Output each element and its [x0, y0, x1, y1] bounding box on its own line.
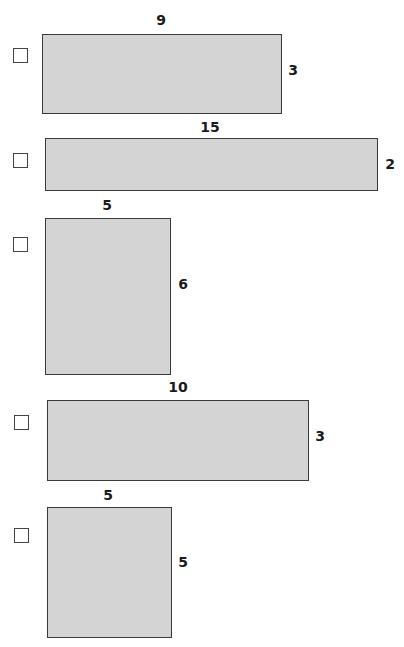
width-label: 5 — [103, 488, 113, 502]
height-label: 3 — [288, 63, 298, 77]
rectangle-shape — [42, 34, 282, 114]
height-label: 6 — [178, 277, 188, 291]
rectangle-shape — [45, 218, 171, 375]
width-label: 15 — [200, 120, 219, 134]
height-label: 3 — [315, 429, 325, 443]
rectangle-shape — [47, 400, 309, 481]
answer-checkbox[interactable] — [13, 153, 28, 168]
answer-checkbox[interactable] — [13, 237, 28, 252]
height-label: 2 — [385, 157, 395, 171]
answer-checkbox[interactable] — [14, 415, 29, 430]
answer-checkbox[interactable] — [14, 528, 29, 543]
width-label: 5 — [102, 198, 112, 212]
answer-checkbox[interactable] — [13, 48, 28, 63]
rectangle-shape — [45, 138, 378, 191]
width-label: 10 — [168, 380, 187, 394]
height-label: 5 — [178, 555, 188, 569]
rectangle-shape — [47, 507, 172, 638]
width-label: 9 — [156, 13, 166, 27]
